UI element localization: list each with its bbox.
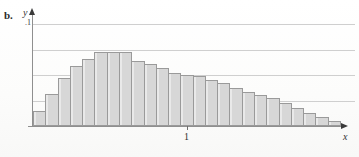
- histogram-bar: [45, 94, 58, 126]
- bar-group: [0, 0, 359, 157]
- histogram-bar: [205, 80, 218, 126]
- histogram-bar: [119, 52, 132, 126]
- histogram-bar: [217, 83, 230, 126]
- histogram-bar: [107, 52, 120, 126]
- histogram-bar: [254, 95, 267, 126]
- histogram-bar: [291, 108, 304, 126]
- histogram-plot: y .1 x 1: [0, 0, 359, 157]
- histogram-bar: [315, 117, 328, 126]
- histogram-bar: [94, 52, 107, 126]
- histogram-bar: [303, 113, 316, 126]
- histogram-bar: [58, 78, 71, 126]
- histogram-bar: [279, 103, 292, 126]
- histogram-bar: [193, 76, 206, 126]
- histogram-bar: [328, 121, 341, 126]
- histogram-bar: [266, 98, 279, 126]
- histogram-bar: [168, 73, 181, 126]
- histogram-bar: [144, 64, 157, 126]
- histogram-bar: [131, 61, 144, 126]
- histogram-bar: [82, 59, 95, 126]
- histogram-bar: [33, 111, 46, 126]
- histogram-bar: [180, 75, 193, 126]
- histogram-bar: [242, 92, 255, 126]
- histogram-bar: [229, 88, 242, 126]
- figure-page: b. y .1 x 1: [0, 0, 359, 157]
- histogram-bar: [156, 68, 169, 126]
- histogram-bar: [70, 66, 83, 126]
